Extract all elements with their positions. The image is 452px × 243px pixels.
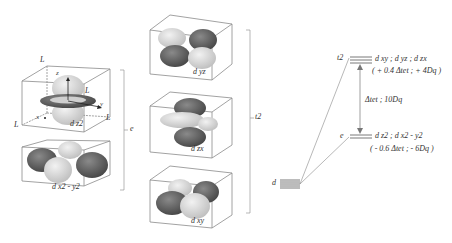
ligand-label-front: L [106, 113, 110, 122]
e-bracket [120, 70, 128, 190]
t2-energy-label: ( + 0.4 Δtet ; + 4Dq ) [372, 66, 441, 75]
delta-tet-label: Δtet ; 10Dq [365, 95, 402, 104]
t2-group-label: t2 [255, 112, 261, 121]
dxy-lobes [156, 179, 219, 219]
ligand-label-top: L [40, 55, 44, 64]
ligand-label-right: L [85, 86, 89, 95]
t2-orbitals-label: d xy ; d yz ; d zx [375, 54, 427, 63]
diagram-canvas [0, 0, 452, 243]
e-level-label: e [340, 131, 344, 140]
energy-diagram [280, 57, 372, 188]
dx2-y2-label: d x2 - y2 [52, 182, 80, 191]
dyz-orbital-box [150, 15, 232, 80]
dxy-label: d xy [191, 216, 204, 225]
e-group-label: e [130, 124, 134, 133]
e-energy-label: ( - 0.6 Δtet ; - 6Dq ) [370, 144, 434, 153]
z-axis-label: z [56, 69, 59, 77]
x-axis-label: x [36, 113, 39, 121]
t2-level-label: t2 [337, 53, 343, 62]
dx2-y2-lobes [27, 141, 108, 183]
ligand-label-left: L [14, 120, 18, 129]
dyz-lobes [158, 28, 217, 69]
e-orbitals-label: d z2 ; d x2 - y2 [375, 131, 423, 140]
y-axis-label: y [100, 100, 103, 108]
free-ion-d-label: d [272, 178, 276, 187]
dzx-label: d zx [191, 144, 204, 153]
t2-bracket [246, 30, 254, 213]
dz2-label: d z2 [70, 119, 83, 128]
dzx-lobes [160, 98, 218, 147]
dyz-label: d yz [193, 67, 206, 76]
